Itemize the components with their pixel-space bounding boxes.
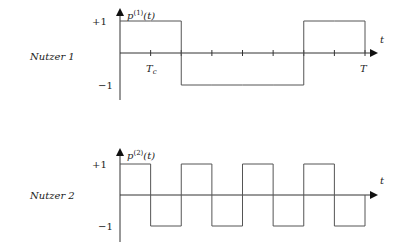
tick-label-T: T	[360, 63, 368, 74]
signal-label-2: p(2)(t)	[127, 149, 155, 161]
waveform-diagram: Nutzer 1 +1 −1 p(1)(t) t Tc T Nutzer 2 +…	[0, 0, 405, 248]
y-tick-plus1-1: +1	[92, 16, 107, 27]
tick-label-tc: Tc	[146, 63, 157, 76]
user-label-2: Nutzer 2	[29, 190, 75, 201]
x-axis-label-2: t	[380, 175, 385, 186]
y-tick-minus1-2: −1	[98, 221, 113, 232]
panel-user-1: Nutzer 1 +1 −1 p(1)(t) t Tc T	[29, 9, 385, 100]
user-label-1: Nutzer 1	[29, 51, 75, 62]
panel-user-2: Nutzer 2 +1 −1 p(2)(t) t	[29, 149, 385, 242]
signal-label-1: p(1)(t)	[127, 9, 155, 21]
y-tick-minus1-1: −1	[98, 80, 113, 91]
y-tick-plus1-2: +1	[92, 159, 107, 170]
x-axis-label-1: t	[380, 34, 385, 45]
